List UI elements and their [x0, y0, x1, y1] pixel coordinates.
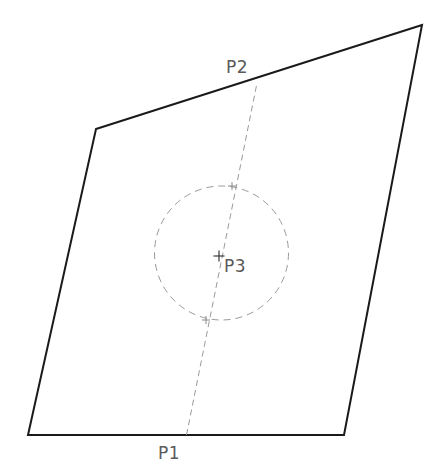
outer-quadrilateral — [28, 25, 422, 435]
p3-center-cross-marker — [214, 251, 225, 262]
dashed-construction-line — [187, 83, 258, 435]
drawing-canvas: P1 P2 P3 — [0, 0, 436, 476]
point-label-p2: P2 — [226, 57, 248, 77]
technical-drawing-svg: P1 P2 P3 — [0, 0, 436, 476]
point-label-p3: P3 — [224, 256, 246, 276]
dashed-circle — [155, 186, 289, 320]
circle-top-intersection-marker — [228, 182, 236, 190]
point-label-p1: P1 — [158, 443, 180, 463]
